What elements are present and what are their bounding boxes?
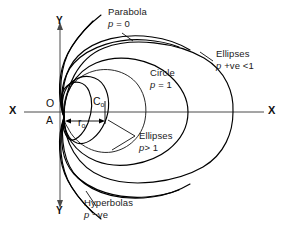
annotation-ellipses-shallow-value: +ve <1 <box>221 60 253 71</box>
x-axis-label-right: X <box>268 105 275 116</box>
annotation-ellipses-shallow: Ellipses p +ve <1 <box>216 48 254 71</box>
y-axis <box>57 22 63 208</box>
annotation-ellipses-shallow-line2: p +ve <1 <box>216 60 254 72</box>
diagram-canvas <box>0 0 283 228</box>
annotation-circle: Circle p = 1 <box>150 67 175 90</box>
circle-center-symbol: C <box>93 95 101 107</box>
conic-sections-figure: X X Y Y O A Co ro Parabola p = 0 Ellipse… <box>0 0 283 228</box>
annotation-circle-line1: Circle <box>150 67 175 79</box>
y-axis-label-bottom: Y <box>56 205 63 216</box>
annotation-ellipses-steep: Ellipses p> 1 <box>139 130 173 153</box>
y-axis-label-top: Y <box>56 15 63 26</box>
annotation-ellipses-steep-line1: Ellipses <box>139 130 173 142</box>
annotation-parabola-value: = 0 <box>113 18 130 29</box>
radius-label: ro <box>78 117 85 129</box>
annotation-parabola-line1: Parabola <box>108 6 147 18</box>
annotation-ellipses-shallow-line1: Ellipses <box>216 48 254 60</box>
annotation-ellipses-steep-value: > 1 <box>144 142 158 153</box>
x-axis-label-left: X <box>9 105 16 116</box>
radius-subscript: o <box>82 122 86 129</box>
circle-center-subscript: o <box>101 101 105 108</box>
annotation-circle-line2: p = 1 <box>150 79 175 91</box>
origin-point-label: O <box>46 98 54 109</box>
annotation-ellipses-steep-line2: p> 1 <box>139 142 173 154</box>
annotation-hyperbolas: Hyperbolas p −ve <box>84 197 133 220</box>
annotation-hyperbolas-value: −ve <box>89 209 108 220</box>
circle-center-label: Co <box>93 96 105 108</box>
leader-ellipses-steep <box>108 120 135 150</box>
annotation-parabola-line2: p = 0 <box>108 18 147 30</box>
annotation-hyperbolas-line2: p −ve <box>84 209 133 221</box>
annotation-parabola: Parabola p = 0 <box>108 6 147 29</box>
radius-symbol: r <box>78 116 82 128</box>
apse-point-label: A <box>46 115 53 126</box>
annotation-circle-value: = 1 <box>155 79 172 90</box>
annotation-hyperbolas-line1: Hyperbolas <box>84 197 133 209</box>
